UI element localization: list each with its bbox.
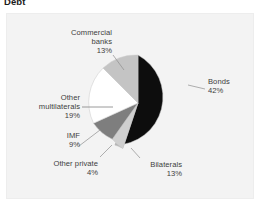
slice-label-imf-value: 9% [50,140,80,149]
leader-line-other-private [100,145,112,157]
slice-label-imf-name: IMF [50,131,80,140]
leader-line-bilaterals [131,148,140,158]
chart-figure: Debt Commercial banks 13% Bonds 42% Othe… [0,0,260,204]
slice-label-bonds: Bonds 42% [208,77,254,95]
leader-line-imf [79,130,100,146]
slice-label-other-multilaterals-value: 19% [6,111,80,120]
slice-label-other-multilaterals-name-line2: multilaterals [6,102,80,111]
slice-label-bilaterals: Bilaterals 13% [130,160,182,178]
slice-label-bonds-name: Bonds [208,77,254,86]
slice-label-commercial-banks-value: 13% [36,46,112,55]
slice-label-bilaterals-value: 13% [130,169,182,178]
slice-label-other-multilaterals-name-line1: Other [6,93,80,102]
slice-label-bilaterals-name: Bilaterals [130,160,182,169]
slice-label-commercial-banks-name-line2: banks [36,37,112,46]
slice-label-commercial-banks-name-line1: Commercial [36,28,112,37]
slice-label-bonds-value: 42% [208,86,254,95]
slice-label-other-private-value: 4% [26,168,98,177]
slice-label-imf: IMF 9% [50,131,80,149]
slice-label-other-private-name: Other private [26,159,98,168]
leader-line-bonds [188,85,205,89]
slice-label-commercial-banks: Commercial banks 13% [36,28,112,56]
slice-label-other-multilaterals: Other multilaterals 19% [6,93,80,121]
slice-label-other-private: Other private 4% [26,159,98,177]
